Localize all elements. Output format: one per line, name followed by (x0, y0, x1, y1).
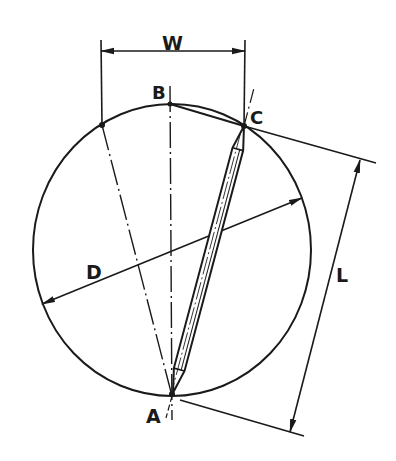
label-d: D (86, 261, 102, 283)
l-extension-bottom (180, 400, 304, 436)
label-c: C (250, 107, 263, 128)
rod-body (168, 125, 250, 395)
label-b: B (152, 82, 166, 103)
rod-inner-line (181, 150, 240, 370)
w-extension-right (244, 40, 245, 126)
diagram-canvas: W B C D L A (0, 0, 396, 461)
w-extension-left (101, 40, 102, 125)
vertical-centerline (170, 86, 172, 420)
left-construction-line (102, 125, 172, 396)
l-extension-top (244, 126, 376, 163)
label-w: W (162, 32, 183, 54)
rod-axis-extension-bottom (166, 396, 172, 418)
d-dimension-line-right (172, 198, 302, 251)
chord-bc (170, 104, 244, 126)
label-l: L (336, 264, 348, 286)
rod-centerline (173, 131, 241, 386)
point-b-dot (168, 102, 173, 107)
rod (168, 125, 250, 395)
construction-drawing: W B C D L A (0, 0, 396, 461)
d-dimension-line-left (42, 251, 172, 304)
label-a: A (146, 405, 161, 427)
